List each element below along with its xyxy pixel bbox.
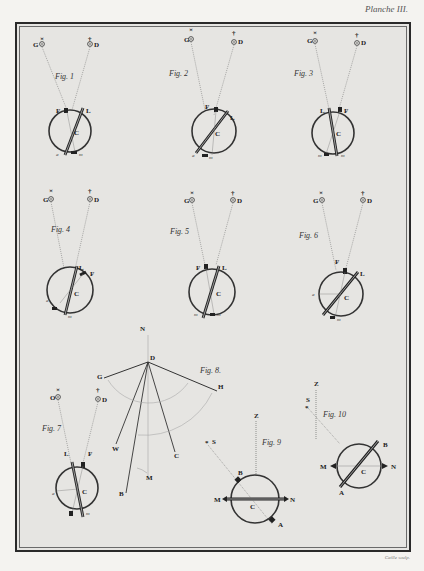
figure-label: Fig. 7 [41, 424, 62, 433]
figure-7: × † O D Fig. 7 L F C a m [41, 386, 107, 517]
svg-text:N: N [290, 496, 295, 504]
svg-text:C: C [174, 452, 179, 460]
svg-text:C: C [74, 290, 79, 298]
figure-2: × † G D Fig. 2 F L C a m [168, 26, 243, 160]
svg-text:×: × [319, 189, 323, 197]
svg-text:†: † [361, 189, 365, 197]
svg-text:m: m [68, 314, 72, 319]
label-L: L [86, 107, 91, 115]
svg-text:A: A [339, 489, 344, 497]
svg-text:m: m [79, 152, 83, 157]
figure-4: × † G D Fig. 4 L F C a m [43, 187, 99, 319]
svg-text:Z: Z [254, 412, 259, 420]
svg-text:L: L [320, 107, 325, 115]
svg-text:M: M [320, 463, 327, 471]
figure-label: Fig. 5 [169, 227, 189, 236]
figure-6: × † G D Fig. 6 F L C a m [298, 189, 372, 322]
figure-label: Fig. 4 [50, 225, 70, 234]
svg-text:†: † [232, 29, 236, 37]
svg-text:C: C [361, 468, 366, 476]
figure-label: Fig. 3 [293, 69, 313, 78]
svg-text:F: F [90, 270, 94, 278]
figure-label: Fig. 9 [261, 438, 281, 447]
svg-text:D: D [367, 197, 372, 205]
svg-text:G: G [307, 37, 313, 45]
svg-text:×: × [190, 189, 194, 197]
svg-text:C: C [216, 290, 221, 298]
svg-text:F: F [205, 103, 209, 111]
svg-text:G: G [184, 36, 190, 44]
svg-text:B: B [383, 441, 388, 449]
svg-text:H: H [218, 383, 224, 391]
label-C: C [74, 129, 79, 137]
figure-label: Fig. 10 [322, 410, 346, 419]
label-D: D [94, 41, 99, 49]
svg-text:m: m [217, 312, 221, 317]
svg-text:D: D [238, 38, 243, 46]
figure-label: Fig. 8. [199, 366, 221, 375]
svg-text:M: M [146, 474, 153, 482]
svg-text:B: B [119, 490, 124, 498]
figure-5: × † G D Fig. 5 F L C m m [169, 189, 242, 318]
svg-text:F: F [196, 264, 200, 272]
svg-text:A: A [278, 521, 283, 529]
engraved-plate: × † G D Fig. 1 F L C a m × † G D Fig. 2 [0, 0, 424, 571]
svg-text:D: D [150, 354, 155, 362]
svg-text:L: L [222, 264, 227, 272]
svg-text:C: C [215, 130, 220, 138]
svg-text:D: D [102, 396, 107, 404]
svg-text:m: m [341, 153, 345, 158]
svg-text:D: D [94, 196, 99, 204]
svg-text:C: C [82, 488, 87, 496]
svg-text:S: S [306, 396, 310, 404]
svg-text:×: × [189, 26, 193, 34]
svg-text:L: L [64, 450, 69, 458]
svg-text:B: B [238, 469, 243, 477]
svg-text:C: C [344, 294, 349, 302]
svg-text:a: a [312, 292, 315, 297]
svg-text:C: C [250, 503, 255, 511]
svg-text:m: m [194, 312, 198, 317]
svg-text:F: F [335, 258, 339, 266]
svg-text:F: F [344, 107, 348, 115]
svg-text:m: m [318, 153, 322, 158]
label-F: F [56, 107, 60, 115]
svg-text:N: N [391, 463, 396, 471]
svg-text:×: × [313, 29, 317, 37]
star-symbol: * [305, 404, 309, 412]
svg-text:†: † [88, 187, 92, 195]
svg-text:×: × [49, 187, 53, 195]
label-G: G [33, 41, 39, 49]
svg-text:D: D [361, 39, 366, 47]
svg-text:N: N [140, 325, 145, 333]
svg-text:G: G [313, 197, 319, 205]
svg-text:a: a [192, 153, 195, 158]
svg-text:m: m [209, 155, 213, 160]
svg-text:M: M [214, 496, 221, 504]
svg-text:m: m [337, 317, 341, 322]
figure-label: Fig. 1 [54, 72, 74, 81]
svg-text:G: G [43, 196, 49, 204]
svg-text:S: S [212, 438, 216, 446]
figure-1: × † G D Fig. 1 F L C a m [33, 35, 99, 157]
svg-text:G: G [97, 373, 103, 381]
svg-text:C: C [336, 130, 341, 138]
svg-text:a: a [52, 491, 55, 496]
svg-text:L: L [360, 270, 365, 278]
svg-text:a: a [56, 152, 59, 157]
figure-8: N D G H W B M C Fig. 8. [97, 325, 224, 498]
svg-text:m: m [86, 511, 90, 516]
figure-3: × † G D Fig. 3 L F C m m [293, 29, 366, 158]
svg-text:L: L [79, 264, 84, 272]
svg-text:G: G [184, 197, 190, 205]
svg-text:Z: Z [314, 380, 319, 388]
svg-text:O: O [50, 394, 56, 402]
figure-label: Fig. 6 [298, 231, 318, 240]
svg-text:×: × [56, 386, 60, 394]
svg-text:W: W [112, 445, 119, 453]
figure-9: Z Fig. 9 * S B M N C A [205, 412, 295, 529]
figure-10: Z Fig. 10 * S B M N C A [305, 380, 396, 497]
figure-label: Fig. 2 [168, 69, 188, 78]
svg-text:†: † [96, 386, 100, 394]
svg-text:F: F [88, 450, 92, 458]
